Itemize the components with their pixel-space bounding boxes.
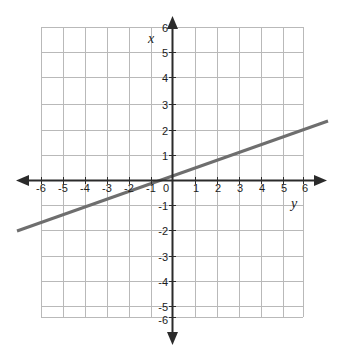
tick-label-h--1: -1	[146, 182, 156, 194]
tick-label-h-4: 4	[259, 182, 265, 194]
tick-label-v--2: -2	[158, 225, 168, 237]
tick-label-h-5: 5	[281, 182, 287, 194]
tick-label-v--5: -5	[158, 301, 168, 313]
tick-label-h-3: 3	[237, 182, 243, 194]
tick-label-h--6: -6	[36, 182, 46, 194]
tick-label-v-3: 3	[162, 99, 168, 111]
coordinate-plane-svg: -6 -5 -4 -3 -2 -1 0 1 2 3 4 5 6 6 5 4 3 …	[0, 0, 343, 359]
tick-label-v--3: -3	[158, 251, 168, 263]
tick-label-v-5: 5	[162, 47, 168, 59]
tick-label-v-6: 6	[162, 22, 168, 34]
graph-figure: -6 -5 -4 -3 -2 -1 0 1 2 3 4 5 6 6 5 4 3 …	[0, 0, 343, 359]
tick-label-h--5: -5	[58, 182, 68, 194]
cropped-caption-text	[0, 0, 343, 6]
tick-label-origin: 0	[163, 182, 169, 194]
tick-label-h--2: -2	[124, 182, 134, 194]
tick-label-h-1: 1	[193, 182, 199, 194]
tick-label-v-2: 2	[162, 125, 168, 137]
tick-label-h-6: 6	[302, 182, 308, 194]
tick-label-h--4: -4	[80, 182, 90, 194]
tick-label-v-1: 1	[162, 150, 168, 162]
horizontal-axis-label: y	[289, 196, 298, 211]
tick-label-h-2: 2	[215, 182, 221, 194]
tick-label-h--3: -3	[102, 182, 112, 194]
tick-label-v-4: 4	[162, 72, 168, 84]
tick-label-v--1: -1	[158, 200, 168, 212]
tick-label-v--6: -6	[158, 314, 168, 326]
tick-label-v--4: -4	[158, 276, 168, 288]
vertical-axis-label: x	[147, 31, 155, 46]
